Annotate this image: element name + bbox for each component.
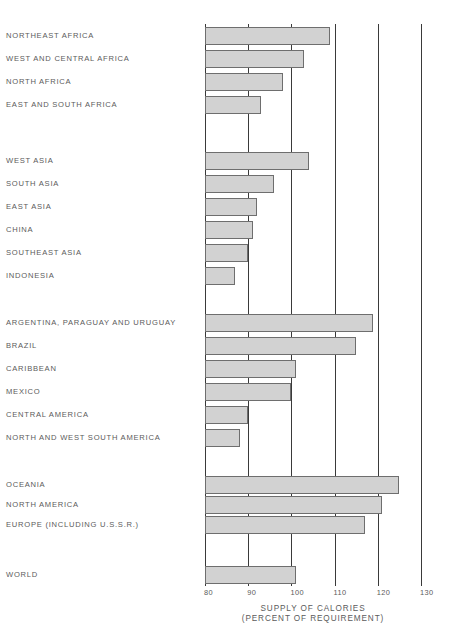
x-tick-label-80: 80	[204, 588, 213, 597]
bar	[205, 314, 373, 332]
gridline-130	[421, 24, 422, 586]
category-label: ARGENTINA, PARAGUAY AND URUGUAY	[6, 314, 202, 332]
bar	[205, 27, 330, 45]
category-label: SOUTHEAST ASIA	[6, 244, 202, 262]
bar	[205, 152, 309, 170]
category-label: NORTH AND WEST SOUTH AMERICA	[6, 429, 202, 447]
category-label: CHINA	[6, 221, 202, 239]
x-tick-label-130: 130	[420, 588, 434, 597]
category-label: EUROPE (INCLUDING U.S.S.R.)	[6, 516, 202, 534]
bar	[205, 476, 399, 494]
category-label: WEST ASIA	[6, 152, 202, 170]
x-tick-label-100: 100	[290, 588, 304, 597]
x-tick-label-120: 120	[377, 588, 391, 597]
category-label: BRAZIL	[6, 337, 202, 355]
bar	[205, 244, 248, 262]
category-label-column: NORTHEAST AFRICAWEST AND CENTRAL AFRICAN…	[0, 24, 202, 586]
category-label: EAST AND SOUTH AFRICA	[6, 96, 202, 114]
bar	[205, 175, 274, 193]
x-tick-label-110: 110	[334, 588, 347, 597]
bar	[205, 566, 296, 584]
category-label: INDONESIA	[6, 267, 202, 285]
x-axis-title-line-1: SUPPLY OF CALORIES	[205, 604, 421, 613]
category-label: CARIBBEAN	[6, 360, 202, 378]
category-label: WEST AND CENTRAL AFRICA	[6, 50, 202, 68]
category-label: NORTH AFRICA	[6, 73, 202, 91]
bar	[205, 50, 304, 68]
bar	[205, 221, 253, 239]
bar	[205, 198, 257, 216]
bar	[205, 73, 283, 91]
bar	[205, 267, 235, 285]
bar	[205, 96, 261, 114]
plot-area	[205, 24, 421, 586]
x-tick-label-90: 90	[247, 588, 256, 597]
bar	[205, 383, 291, 401]
bar	[205, 360, 296, 378]
bar	[205, 337, 356, 355]
category-label: WORLD	[6, 566, 202, 584]
category-label: MEXICO	[6, 383, 202, 401]
bar	[205, 406, 248, 424]
bar	[205, 429, 240, 447]
calorie-supply-bar-chart: NORTHEAST AFRICAWEST AND CENTRAL AFRICAN…	[0, 0, 452, 637]
category-label: EAST ASIA	[6, 198, 202, 216]
category-label: SOUTH ASIA	[6, 175, 202, 193]
bar	[205, 496, 382, 514]
category-label: OCEANIA	[6, 476, 202, 494]
category-label: NORTHEAST AFRICA	[6, 27, 202, 45]
x-axis-title-line-2: (PERCENT OF REQUIREMENT)	[205, 614, 421, 623]
bar	[205, 516, 365, 534]
category-label: CENTRAL AMERICA	[6, 406, 202, 424]
category-label: NORTH AMERICA	[6, 496, 202, 514]
